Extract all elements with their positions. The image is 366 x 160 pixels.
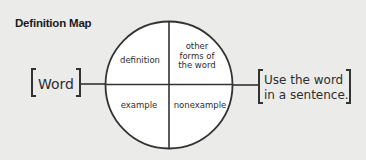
quadrant-other-forms-line-2: forms of [179,51,215,61]
quadrant-other-forms-line-1: other [186,41,209,51]
sentence-line-2: in a sentence. [264,88,349,102]
sentence-left-bracket-icon [259,70,263,103]
center-word: Word [38,76,74,92]
quadrant-example: example [121,100,158,110]
definition-map-diagram: definition other forms of the word examp… [0,0,366,160]
word-left-bracket-icon [32,69,36,96]
word-right-bracket-icon [76,69,80,96]
quadrant-nonexample: nonexample [174,100,227,110]
quadrant-other-forms-line-3: the word [178,60,216,70]
sentence-line-1: Use the word [264,73,343,87]
quadrant-definition: definition [120,55,160,65]
